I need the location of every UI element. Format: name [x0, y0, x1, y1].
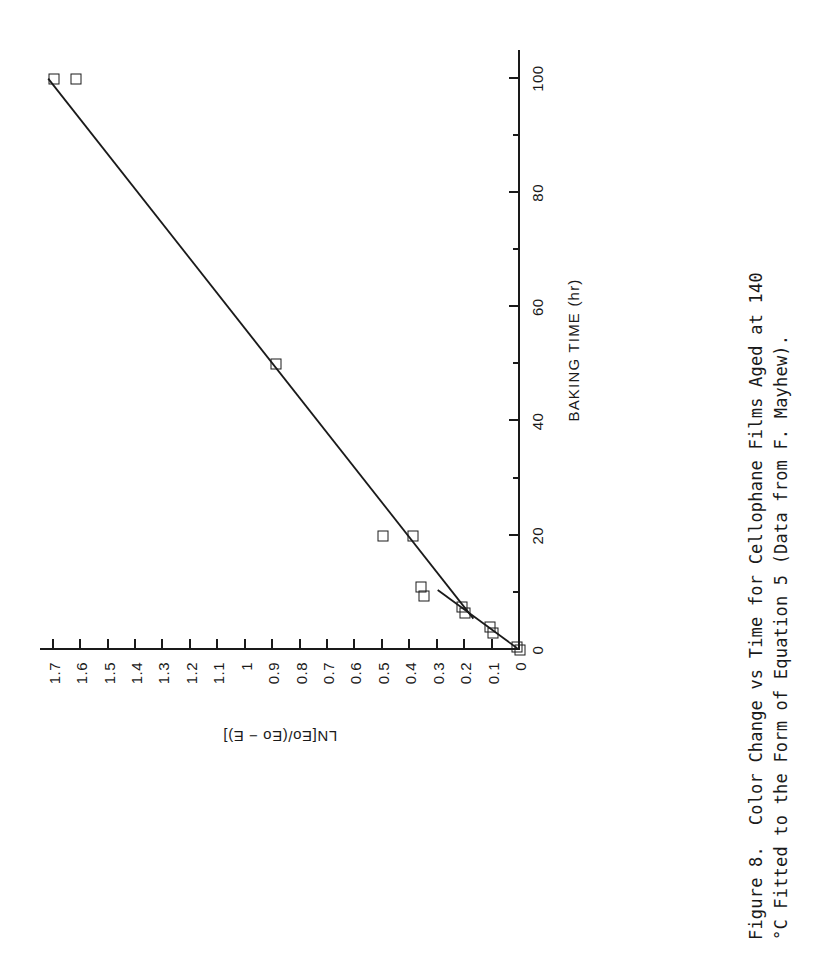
y-tick-label: 0.4 [402, 662, 419, 684]
y-tick-label: 0.2 [457, 662, 474, 684]
y-tick-label: 0.5 [374, 662, 391, 684]
figure-caption: Figure 8. Color Change vs Time for Cello… [744, 40, 794, 940]
data-point-marker [457, 602, 468, 613]
equation-5-fit-lower [438, 590, 518, 648]
x-tick-label: 20 [529, 527, 546, 545]
figure-page: 020406080100 00.10.20.30.40.50.60.70.80.… [0, 0, 834, 966]
y-axis-title: LN[Eo/(Eo − E)] [223, 728, 337, 745]
y-tick-label: 1.4 [128, 662, 145, 684]
data-point-marker [48, 73, 59, 84]
plot-area: 020406080100 00.10.20.30.40.50.60.70.80.… [40, 50, 520, 650]
y-tick-label: 0.6 [347, 662, 364, 684]
y-tick-label: 1.6 [73, 662, 90, 684]
y-tick-label: 1.2 [182, 662, 199, 684]
x-tick-label: 100 [529, 65, 546, 92]
x-tick-label: 80 [529, 184, 546, 202]
y-tick-label: 1.5 [100, 662, 117, 684]
data-point-marker [270, 359, 281, 370]
data-point-marker [377, 530, 388, 541]
y-tick-label: 1.3 [155, 662, 172, 684]
y-tick-label: 0.1 [484, 662, 501, 684]
data-point-marker [408, 530, 419, 541]
x-tick-label: 60 [529, 298, 546, 316]
caption-line-1: Figure 8. Color Change vs Time for Cello… [746, 272, 766, 940]
y-tick-label: 1 [237, 662, 254, 671]
plot-rotation-wrapper: 020406080100 00.10.20.30.40.50.60.70.80.… [0, 0, 600, 760]
y-tick-label: 0.7 [320, 662, 337, 684]
data-point-marker [512, 642, 523, 653]
x-tick-label: 40 [529, 413, 546, 431]
y-tick-label: 0.9 [265, 662, 282, 684]
caption-line-2: °C Fitted to the Form of Equation 5 (Dat… [771, 335, 791, 940]
y-tick-label: 0.3 [429, 662, 446, 684]
y-tick-label: 1.1 [210, 662, 227, 684]
data-point-marker [70, 73, 81, 84]
x-tick-label: 0 [529, 646, 546, 655]
caption-rotation-wrapper: Figure 8. Color Change vs Time for Cello… [744, 40, 814, 940]
data-point-marker [484, 622, 495, 633]
data-point-marker [416, 582, 427, 593]
y-tick-label: 0.8 [292, 662, 309, 684]
y-tick-label: 1.7 [45, 662, 62, 684]
x-axis-title: BAKING TIME (hr) [565, 278, 582, 421]
fit-line-layer [40, 50, 520, 650]
y-tick-label: 0 [512, 662, 529, 671]
